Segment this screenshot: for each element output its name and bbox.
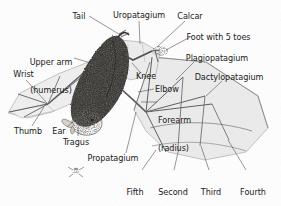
label-wrist: Wrist bbox=[0, 70, 47, 79]
label-fourth-finger-line1: Fourth bbox=[226, 188, 280, 197]
label-plagiopatagium: Plagiopatagium bbox=[169, 54, 265, 63]
label-dactylopatagium: Dactylopatagium bbox=[177, 73, 281, 82]
label-calcar: Calcar bbox=[163, 12, 217, 21]
label-upper-arm-line2: (humerus) bbox=[6, 86, 96, 95]
label-elbow: Elbow bbox=[155, 85, 179, 94]
label-forearm-line1: Forearm bbox=[158, 116, 191, 125]
label-forearm-line2: (radius) bbox=[158, 144, 191, 153]
label-fourth-finger: Fourth finger bbox=[226, 170, 280, 206]
label-forearm-radius: Forearm (radius) bbox=[158, 98, 191, 172]
label-foot-with-5-toes: Foot with 5 toes bbox=[166, 33, 271, 42]
label-upper-arm-line1: Upper arm bbox=[6, 58, 96, 67]
bat-anatomy-figure: Tail Uropatagium Calcar Foot with 5 toes… bbox=[0, 0, 281, 206]
label-propatagium: Propatagium bbox=[70, 154, 156, 163]
label-tragus: Tragus bbox=[53, 138, 99, 147]
label-ear: Ear bbox=[44, 127, 74, 136]
label-knee: Knee bbox=[125, 72, 167, 81]
